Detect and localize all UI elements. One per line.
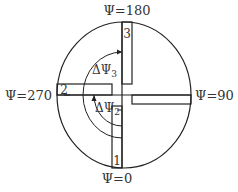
panel-label-3: 3 <box>123 27 131 41</box>
arc-label-delta-psi-2: ΔΨ2 <box>95 101 120 117</box>
panel-right <box>132 95 191 104</box>
panel-label-2: 2 <box>60 83 68 97</box>
label-psi-90: Ψ=90 <box>195 88 234 103</box>
arc-label-base: ΔΨ <box>95 101 115 115</box>
arc-label-delta-psi-3: ΔΨ3 <box>92 63 117 79</box>
label-psi-270: Ψ=270 <box>5 88 52 103</box>
orientation-diagram: Ψ=180 Ψ=0 Ψ=270 Ψ=90 3 2 1 ΔΨ3 ΔΨ2 <box>0 0 238 192</box>
arc-label-base: ΔΨ <box>92 63 112 77</box>
label-psi-180: Ψ=180 <box>103 3 150 18</box>
panel-label-1: 1 <box>113 154 121 168</box>
arc-label-sub: 3 <box>111 69 117 79</box>
label-psi-0: Ψ=0 <box>102 171 133 186</box>
arc-label-sub: 2 <box>114 107 120 117</box>
arrowhead-icon <box>117 50 122 55</box>
